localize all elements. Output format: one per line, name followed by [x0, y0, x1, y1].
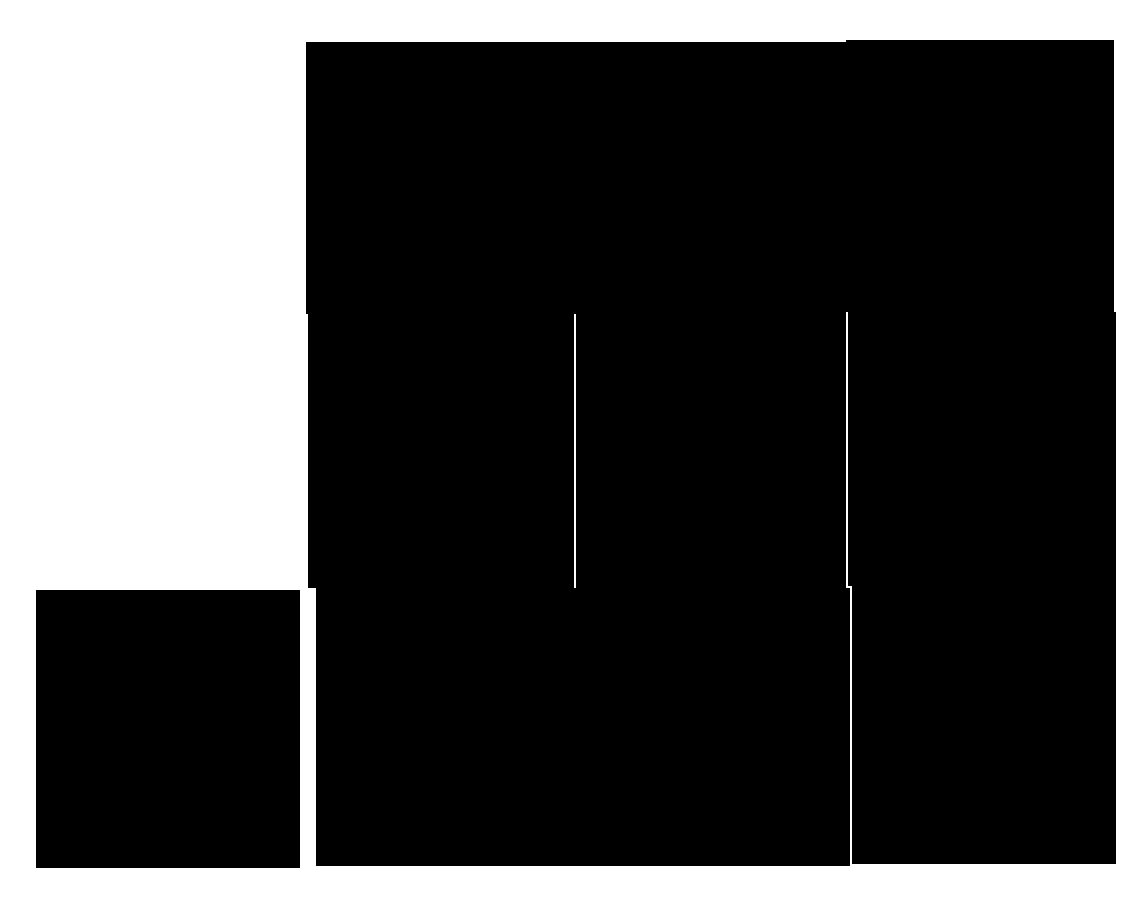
motif-graphic [308, 314, 574, 588]
motif-graphic [36, 590, 300, 868]
grid-cell-r2c2 [576, 314, 846, 588]
motif-graphic [576, 314, 846, 588]
motif-graphic [316, 588, 578, 866]
motif-graphic [852, 586, 1116, 864]
single-tile [36, 590, 300, 868]
grid-cell-r1c1 [306, 42, 574, 314]
motif-graphic [578, 588, 850, 866]
grid-cell-r3c2 [578, 588, 850, 866]
grid-cell-r3c1 [316, 588, 578, 866]
grid-cell-r2c3 [848, 312, 1116, 586]
grid-cell-r2c1 [308, 314, 574, 588]
grid-cell-r3c3 [852, 586, 1116, 864]
grid-cell-r1c3 [846, 40, 1114, 312]
motif-graphic [306, 42, 574, 314]
motif-graphic [846, 40, 1114, 312]
motif-graphic [574, 42, 846, 314]
grid-cell-r1c2 [574, 42, 846, 314]
motif-graphic [848, 312, 1116, 586]
